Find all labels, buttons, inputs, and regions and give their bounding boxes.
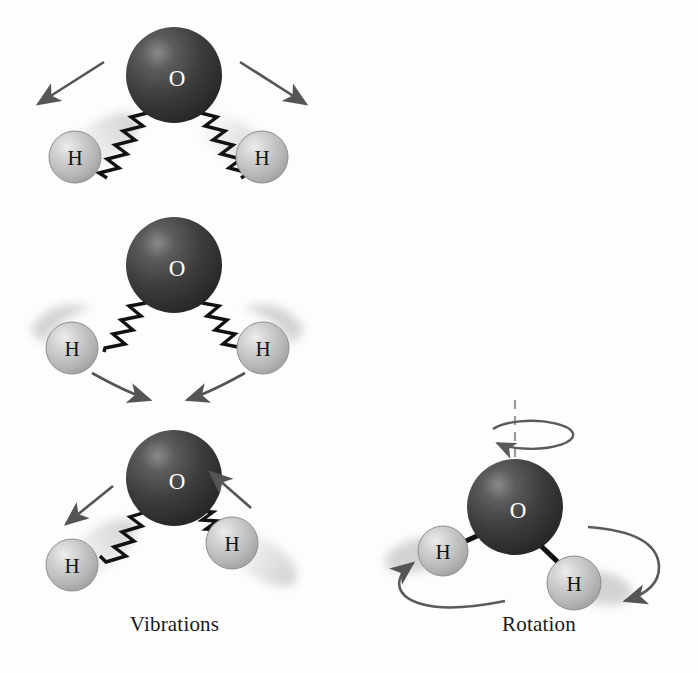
hydrogen-atom-left: H	[46, 539, 98, 591]
axis-spin-arrow	[493, 421, 573, 449]
oxygen-label: O	[169, 256, 186, 281]
motion-arrow-left	[38, 62, 104, 104]
rotation-caption: Rotation	[380, 612, 698, 637]
hydrogen-atom-left: H	[49, 131, 101, 183]
hydrogen-label: H	[255, 337, 270, 361]
hydrogen-label: H	[67, 146, 82, 170]
motion-arrow-right	[240, 62, 306, 104]
oxygen-label: O	[169, 469, 186, 494]
oxygen-atom: O	[126, 217, 222, 313]
hydrogen-label: H	[64, 554, 79, 578]
hydrogen-label: H	[435, 540, 450, 564]
hydrogen-atom-right: H	[547, 556, 601, 610]
oxygen-label: O	[510, 498, 527, 523]
hydrogen-label: H	[566, 572, 581, 596]
molecule-asymmetric-stretch: H H O	[46, 430, 306, 597]
bend-arrow-left	[92, 373, 150, 400]
molecule-bending: H H O	[30, 217, 305, 400]
hydrogen-atom-left: H	[418, 526, 468, 576]
molecule-symmetric-stretch: H H O	[38, 27, 306, 183]
hydrogen-atom-right: H	[236, 131, 288, 183]
spring-bond-left	[104, 303, 146, 352]
hydrogen-label: H	[224, 532, 239, 556]
molecular-motion-figure: H H O H	[0, 0, 698, 673]
hydrogen-atom-left: H	[46, 322, 98, 374]
hydrogen-atom-right: H	[206, 517, 258, 569]
figure-canvas: H H O H	[0, 0, 698, 673]
oxygen-label: O	[169, 66, 186, 91]
hydrogen-label: H	[64, 337, 79, 361]
vibrations-caption: Vibrations	[0, 612, 349, 637]
hydrogen-label: H	[254, 146, 269, 170]
oxygen-atom: O	[126, 27, 222, 123]
motion-arrow-left	[66, 486, 113, 524]
oxygen-atom: O	[467, 459, 563, 555]
molecule-rotation: H O H	[381, 400, 659, 610]
hydrogen-atom-right: H	[237, 322, 289, 374]
oxygen-atom: O	[126, 430, 222, 526]
bend-arrow-right	[187, 373, 245, 400]
